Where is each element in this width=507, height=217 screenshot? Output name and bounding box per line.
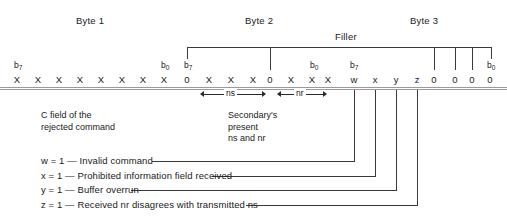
leader-hline-y: [131, 190, 397, 191]
byte-3-bit-7-w: w: [348, 74, 360, 85]
secondary-present-line-3: ns and nr: [228, 133, 277, 145]
frmr-frame-format-diagram: Byte 1 Byte 2 Byte 3 Filler b7 b0 b7 b0 …: [0, 0, 507, 217]
byte-2-bit-3: 0: [264, 74, 276, 85]
leader-vline-x: [375, 90, 376, 176]
filler-tick-byte3-bit6: [472, 47, 473, 70]
legend-item-z: z = 1 — Received nr disagrees with trans…: [41, 199, 258, 210]
byte-2-bit-1: X: [306, 74, 318, 85]
filler-tick-byte3-bit5: [455, 47, 456, 70]
leader-vline-w: [354, 90, 355, 161]
byte-2-bit-4: X: [247, 74, 259, 85]
byte-2-bit-7: 0: [181, 74, 193, 85]
byte-3-msb-subscript: 7: [355, 64, 359, 71]
filler-tick-byte3-b0: [491, 47, 492, 59]
byte-2-msb-subscript: 7: [189, 64, 193, 71]
leader-vline-z: [417, 90, 418, 205]
byte-2-bit-6: X: [203, 74, 215, 85]
secondary-present-line-2: present: [228, 122, 277, 134]
filler-tick-byte3-bit4: [434, 47, 435, 70]
frame-baseline-rule: [0, 87, 507, 88]
byte-3-bit-6-x: x: [369, 74, 381, 85]
byte-2-lsb-subscript: 0: [315, 64, 319, 71]
c-field-caption-line-2: rejected command: [41, 122, 115, 134]
filler-tick-byte2-mid: [270, 47, 271, 70]
byte-1-bit-6: X: [32, 74, 44, 85]
byte-3-bit-1: 0: [466, 74, 478, 85]
byte-3-msb-label: b7: [350, 60, 358, 70]
byte-1-bit-0: X: [158, 74, 170, 85]
secondary-present-line-1: Secondary's: [228, 110, 277, 122]
byte-2-header: Byte 2: [245, 15, 273, 26]
byte-3-bit-3: 0: [428, 74, 440, 85]
byte-3-lsb-label: b0: [487, 60, 495, 70]
legend-item-x: x = 1 — Prohibited information field rec…: [41, 170, 232, 181]
byte-1-bit-3: X: [95, 74, 107, 85]
filler-header: Filler: [335, 31, 357, 42]
byte-2-bit-2: X: [285, 74, 297, 85]
byte-1-bit-5: X: [53, 74, 65, 85]
legend-item-w: w = 1 — Invalid command: [41, 155, 153, 166]
nr-arrow-label: nr: [294, 88, 306, 98]
ns-arrow-right-head: [262, 91, 266, 97]
byte-2-msb-label: b7: [184, 60, 192, 70]
byte-3-bit-4-z: z: [411, 74, 423, 85]
byte-1-bit-7: X: [11, 74, 23, 85]
byte-1-msb-label: b7: [14, 60, 22, 70]
nr-arrow-right-head: [323, 91, 327, 97]
byte-1-bit-2: X: [116, 74, 128, 85]
byte-1-bit-1: X: [137, 74, 149, 85]
c-field-caption-line-1: C field of the: [41, 110, 115, 122]
filler-bracket-span: [187, 47, 492, 48]
leader-hline-x: [212, 176, 376, 177]
byte-2-bit-0: X: [322, 74, 334, 85]
secondary-present-caption: Secondary's present ns and nr: [228, 110, 277, 145]
leader-hline-z: [246, 205, 418, 206]
leader-hline-w: [152, 161, 355, 162]
byte-3-header: Byte 3: [410, 15, 438, 26]
ns-arrow-label: ns: [224, 88, 237, 98]
byte-1-bit-4: X: [74, 74, 86, 85]
byte-2-lsb-label: b0: [310, 60, 318, 70]
byte-1-header: Byte 1: [76, 15, 104, 26]
byte-3-bit-0: 0: [484, 74, 496, 85]
byte-1-msb-subscript: 7: [19, 64, 23, 71]
byte-3-bit-5-y: y: [390, 74, 402, 85]
byte-3-lsb-subscript: 0: [492, 64, 496, 71]
legend-item-y: y = 1 — Buffer overrun: [41, 184, 139, 195]
filler-tick-byte2-b7: [187, 47, 188, 59]
byte-1-lsb-subscript: 0: [166, 64, 170, 71]
byte-2-bit-5: X: [225, 74, 237, 85]
c-field-caption: C field of the rejected command: [41, 110, 115, 133]
byte-3-bit-2: 0: [449, 74, 461, 85]
leader-vline-y: [396, 90, 397, 190]
byte-1-lsb-label: b0: [161, 60, 169, 70]
